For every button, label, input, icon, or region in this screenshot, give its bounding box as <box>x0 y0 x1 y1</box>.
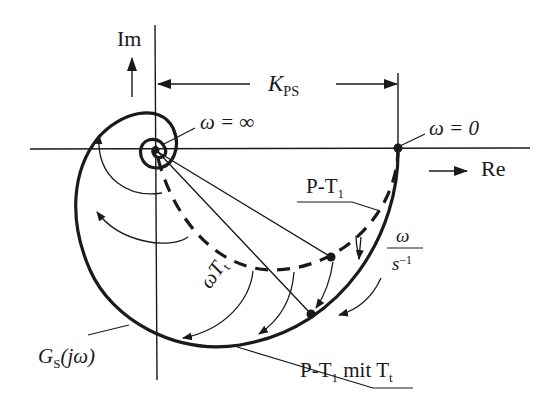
pt1-tt-label: P-T1 mit Tt <box>300 360 393 384</box>
omega-zero-text: ω = 0 <box>429 116 479 140</box>
re-axis-label: Re <box>481 158 505 180</box>
pt1-label: P-T1 <box>306 176 344 200</box>
omega-unit-numerator: ω <box>396 226 409 245</box>
pt1-subscript: 1 <box>338 186 345 201</box>
rotation-arrow-3-icon <box>259 272 294 334</box>
omega-denominator-exponent: −1 <box>399 254 412 267</box>
pt1-tt-text: P-T <box>300 358 332 382</box>
rotation-arrow-2b-icon <box>359 237 361 259</box>
im-axis-label: Im <box>117 28 141 50</box>
kps-symbol: K <box>268 71 283 96</box>
omega-numerator-text: ω <box>396 225 409 246</box>
gs-symbol: G <box>38 344 53 368</box>
transfer-function-label: GS(jω) <box>38 346 95 370</box>
omega-direction-arrow-icon <box>339 278 381 315</box>
im-axis-text: Im <box>117 26 141 51</box>
pt1-tt-suffix-subscript: t <box>389 370 393 385</box>
omega-zero-leader <box>400 134 425 146</box>
kps-subscript: PS <box>283 83 299 99</box>
pt1-tt-suffix: mit T <box>338 358 389 382</box>
pt1-text: P-T <box>306 174 338 198</box>
gs-leader <box>88 325 129 335</box>
point-pt1-tt <box>307 310 316 319</box>
real-axis <box>30 148 530 149</box>
omega-unit-denominator: s−1 <box>392 254 412 273</box>
omega-infinity-label: ω = ∞ <box>200 112 254 133</box>
point-pt1 <box>327 253 336 262</box>
omega-infinity-text: ω = ∞ <box>200 110 254 134</box>
pt1-leader <box>297 202 380 211</box>
omega-inf-leader <box>164 128 195 144</box>
radial-line-pt1-tt <box>158 152 311 314</box>
radial-line-pt1 <box>158 152 331 257</box>
rotation-arrow-5-icon <box>97 212 188 243</box>
kps-label: KPS <box>268 72 299 98</box>
pt1-locus-curve <box>156 148 398 270</box>
gs-argument: (jω) <box>60 344 95 368</box>
rotation-arrow-6-icon <box>99 135 162 194</box>
imaginary-axis <box>155 25 157 380</box>
omega-zero-label: ω = 0 <box>429 118 479 139</box>
re-axis-text: Re <box>481 156 505 181</box>
